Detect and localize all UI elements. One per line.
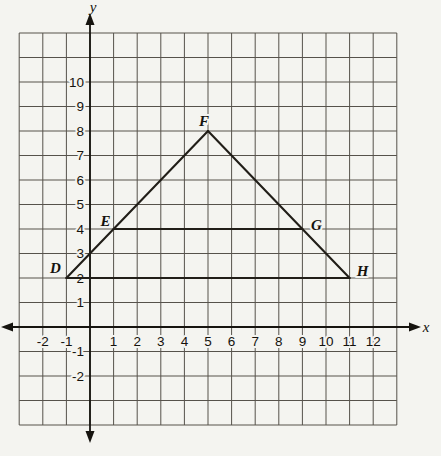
- y-tick-label: 6: [76, 173, 84, 188]
- x-tick-label: 2: [133, 334, 141, 349]
- x-axis-arrow-right: [409, 323, 421, 332]
- x-tick-label: 1: [110, 334, 118, 349]
- x-axis-label: x: [422, 319, 430, 335]
- y-tick-label: -2: [72, 369, 84, 384]
- graph-figure: -2-112345678910111210987654321-1-2 DEFGH…: [0, 0, 441, 456]
- y-tick-label: 3: [76, 246, 84, 261]
- y-tick-label: 4: [76, 222, 84, 237]
- x-tick-label: 10: [318, 334, 333, 349]
- y-tick-label: -1: [72, 344, 84, 359]
- y-tick-label: 9: [76, 99, 84, 114]
- y-tick-label: 1: [76, 295, 84, 310]
- x-tick-label: -2: [37, 334, 49, 349]
- x-tick-label: 3: [157, 334, 165, 349]
- x-tick-label: 4: [181, 334, 189, 349]
- x-tick-label: 9: [299, 334, 307, 349]
- x-tick-label: -1: [60, 334, 72, 349]
- point-label-H: H: [356, 263, 370, 279]
- point-label-F: F: [198, 113, 209, 129]
- point-label-E: E: [100, 213, 111, 229]
- x-tick-label: 5: [204, 334, 212, 349]
- y-axis-label: y: [88, 0, 97, 15]
- coordinate-plane: -2-112345678910111210987654321-1-2 DEFGH…: [0, 0, 441, 456]
- x-tick-label: 8: [275, 334, 283, 349]
- x-tick-label: 12: [366, 334, 381, 349]
- x-tick-label: 7: [251, 334, 259, 349]
- x-tick-label: 11: [343, 334, 357, 349]
- point-label-G: G: [311, 217, 322, 233]
- x-tick-label: 6: [228, 334, 236, 349]
- y-tick-label: 5: [76, 197, 84, 212]
- x-axis-arrow-left: [1, 323, 13, 332]
- y-tick-label: 7: [76, 148, 84, 163]
- y-tick-label: 8: [76, 124, 84, 139]
- point-label-D: D: [49, 260, 61, 276]
- y-tick-label: 10: [69, 75, 84, 90]
- y-axis-arrow-down: [86, 431, 95, 443]
